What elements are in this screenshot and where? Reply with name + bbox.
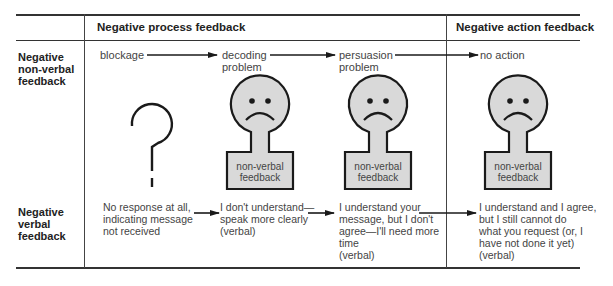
face-label-line: non-verbal [225,161,295,172]
verbal-line: No response at all, [103,201,193,213]
face-label-persuasion: non-verbal feedback [343,161,413,183]
verbal-blockage: No response at all, indicating message n… [103,201,193,237]
verbal-line: time [339,237,439,249]
face-label-no-action: non-verbal feedback [483,161,553,183]
verbal-no-action: I understand and I agree, but I still ca… [479,201,596,261]
verbal-line: message, but I don't [339,213,439,225]
verbal-line: not received [103,225,193,237]
face-label-line: feedback [483,172,553,183]
face-label-line: non-verbal [483,161,553,172]
verbal-line: (verbal) [220,225,314,237]
face-label-line: feedback [225,172,295,183]
verbal-line: I understand your [339,201,439,213]
verbal-line: what you request (or, I [479,225,596,237]
verbal-persuasion: I understand your message, but I don't a… [339,201,439,261]
verbal-line: have not done it yet) [479,237,596,249]
face-label-decoding: non-verbal feedback [225,161,295,183]
verbal-line: but I still cannot do [479,213,596,225]
verbal-line: I don't understand— [220,201,314,213]
verbal-line: (verbal) [479,249,596,261]
face-label-line: non-verbal [343,161,413,172]
question-mark-icon [132,104,172,187]
verbal-line: I understand and I agree, [479,201,596,213]
face-label-line: feedback [343,172,413,183]
verbal-decoding: I don't understand— speak more clearly (… [220,201,314,237]
verbal-line: speak more clearly [220,213,314,225]
verbal-line: agree—I'll need more [339,225,439,237]
verbal-line: indicating message [103,213,193,225]
verbal-line: (verbal) [339,249,439,261]
